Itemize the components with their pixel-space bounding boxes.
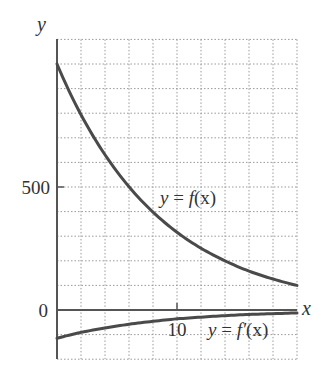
curve-f-prime-label: y = f′(x) [206,319,268,341]
curve-f-prime-label-y: y [206,319,217,340]
x-axis-label: x [301,297,311,319]
x-tick-label-10: 10 [168,319,187,340]
curve-f-prime-label-arg: (x) [246,319,268,341]
curve-f-label: y = f(x) [158,187,216,209]
y-axis-label: y [35,13,46,36]
curve-f-label-y: y [158,187,169,208]
curve-f [57,64,297,285]
curve-f-label-eq: = [168,187,188,208]
chart: y x 500 0 10 y = f(x) y = f′(x) [0,0,325,382]
y-tick-label-500: 500 [22,177,51,198]
y-tick-label-0: 0 [39,300,49,321]
curve-f-label-arg: (x) [194,187,216,209]
curve-f-prime-label-eq: = [216,319,236,340]
